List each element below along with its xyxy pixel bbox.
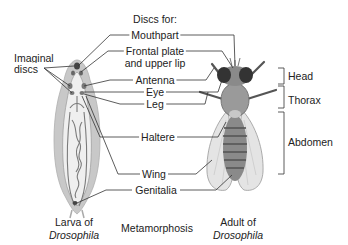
label-head: Head [288,70,313,82]
label-wing: Wing [140,168,168,180]
label-haltere: Haltere [139,131,177,143]
label-frontal-plate-line1: Frontal plate [124,45,186,57]
caption-adult-line1: Adult of [220,216,256,228]
caption-adult-line2: Drosophila [213,229,263,242]
caption-adult: Adult of Drosophila [213,216,263,242]
label-imaginal-discs-line2: discs [14,63,38,75]
drosophila-imaginal-discs-diagram: Discs for: Mouthpart Frontal plate and u… [0,0,348,245]
caption-larva: Larva of Drosophila [49,216,99,242]
discs-for-heading: Discs for: [131,13,179,25]
label-genitalia: Genitalia [133,184,178,196]
caption-larva-line2: Drosophila [49,229,99,242]
adult-fly-illustration [200,58,276,190]
caption-larva-line1: Larva of [55,216,93,228]
label-thorax: Thorax [288,94,321,106]
label-leg: Leg [144,98,166,110]
label-eye: Eye [144,86,166,98]
caption-metamorphosis: Metamorphosis [121,222,193,235]
label-mouthpart: Mouthpart [129,29,180,41]
label-abdomen: Abdomen [288,136,333,148]
label-frontal-plate-line2: and upper lip [123,57,188,69]
label-antenna: Antenna [133,74,176,86]
